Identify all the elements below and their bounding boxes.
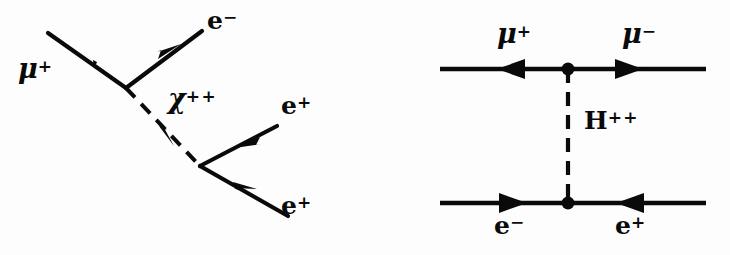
- left-positron-lower-line: [200, 166, 288, 216]
- label-right-bottom-right-symbol: e: [615, 211, 631, 240]
- right-top-right-arrow-icon: [615, 59, 643, 79]
- label-right-top-left-charge: +: [517, 21, 532, 41]
- label-left-muon-charge: +: [38, 56, 53, 76]
- label-left-positron-lower-symbol: e: [281, 191, 297, 220]
- label-right-mediator-charge: ++: [608, 107, 640, 127]
- label-right-top-left: μ+: [497, 20, 532, 47]
- right-bottom-vertex-dot: [562, 197, 575, 210]
- right-bottom-left-arrow-icon: [499, 193, 527, 213]
- left-positron-lower-arrow-icon: [233, 182, 257, 190]
- label-left-muon: μ+: [18, 55, 53, 82]
- label-left-electron: e−: [207, 8, 237, 33]
- label-left-positron-upper: e+: [281, 93, 312, 118]
- label-left-positron-lower: e+: [281, 193, 312, 218]
- left-positron-upper-line: [200, 126, 277, 166]
- label-right-mediator-symbol: H: [584, 106, 608, 135]
- right-diagram-group: [440, 59, 706, 213]
- left-electron-line: [126, 31, 202, 88]
- left-positron-upper-arrow-icon: [234, 137, 262, 148]
- label-right-bottom-left: e−: [494, 213, 524, 238]
- label-right-top-right-charge: −: [642, 21, 656, 41]
- label-left-positron-lower-charge: +: [297, 192, 312, 212]
- label-right-top-right-symbol: μ: [622, 18, 642, 49]
- label-right-bottom-left-charge: −: [510, 212, 524, 232]
- label-left-muon-symbol: μ: [18, 53, 38, 84]
- label-left-positron-upper-symbol: e: [281, 91, 297, 120]
- label-right-top-left-symbol: μ: [497, 18, 517, 49]
- label-right-bottom-right-charge: +: [631, 212, 646, 232]
- label-right-bottom-left-symbol: e: [494, 211, 510, 240]
- right-bottom-right-arrow-icon: [616, 193, 644, 213]
- right-top-vertex-dot: [562, 63, 575, 76]
- figure-root: μ+ e− χ++ e+ e+ μ+ μ− H++ e− e+: [0, 0, 730, 255]
- label-right-top-right: μ−: [622, 20, 656, 47]
- label-left-electron-charge: −: [223, 7, 237, 27]
- label-left-electron-symbol: e: [207, 6, 223, 35]
- label-right-bottom-right: e+: [615, 213, 646, 238]
- label-left-mediator: χ++: [168, 85, 217, 112]
- left-muon-line: [48, 33, 126, 88]
- label-left-mediator-symbol: χ: [168, 83, 186, 114]
- left-diagram-group: [48, 31, 288, 216]
- right-top-left-arrow-icon: [497, 59, 525, 79]
- label-right-mediator: H++: [584, 108, 639, 133]
- label-left-positron-upper-charge: +: [297, 92, 312, 112]
- label-left-mediator-charge: ++: [186, 86, 218, 106]
